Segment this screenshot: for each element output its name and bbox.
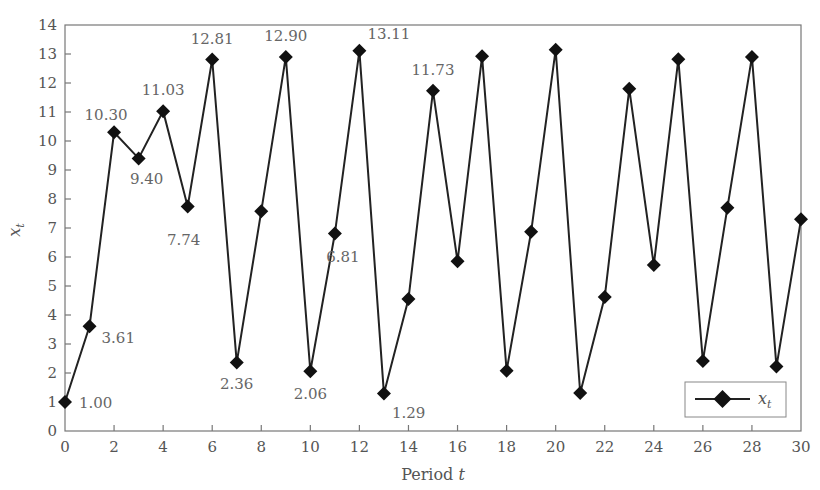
y-tick-label: 13	[38, 45, 57, 63]
y-tick-label: 6	[47, 248, 57, 266]
y-tick-label: 14	[38, 16, 57, 34]
diamond-marker-icon	[794, 212, 808, 226]
data-label: 1.00	[79, 394, 112, 412]
y-tick-label: 0	[47, 422, 57, 440]
data-label: 11.73	[412, 61, 455, 79]
x-tick-label: 16	[448, 438, 467, 456]
data-label: 12.81	[191, 30, 234, 48]
diamond-marker-icon	[475, 49, 489, 63]
y-tick-label: 10	[38, 132, 57, 150]
x-tick-label: 28	[742, 438, 761, 456]
diamond-marker-icon	[254, 204, 268, 218]
x-tick-label: 4	[158, 438, 168, 456]
data-label: 13.11	[367, 25, 410, 43]
diamond-marker-icon	[377, 387, 391, 401]
data-label: 10.30	[85, 106, 128, 124]
x-tick-label: 2	[109, 438, 119, 456]
data-label: 2.06	[294, 385, 327, 403]
x-tick-label: 20	[546, 438, 565, 456]
y-tick-label: 12	[38, 74, 57, 92]
data-label: 11.03	[142, 81, 185, 99]
diamond-marker-icon	[181, 200, 195, 214]
x-tick-label: 18	[497, 438, 516, 456]
diamond-marker-icon	[745, 50, 759, 64]
diamond-marker-icon	[671, 52, 685, 66]
x-tick-label: 14	[399, 438, 418, 456]
diamond-marker-icon	[328, 227, 342, 241]
y-axis: 01234567891011121314	[38, 16, 71, 440]
diamond-marker-icon	[720, 201, 734, 215]
y-tick-label: 2	[47, 364, 57, 382]
diamond-marker-icon	[279, 50, 293, 64]
y-tick-label: 4	[47, 306, 57, 324]
x-tick-label: 22	[595, 438, 614, 456]
data-label: 1.29	[392, 404, 425, 422]
y-tick-label: 11	[38, 103, 57, 121]
x-axis-title: Period t	[401, 465, 465, 484]
data-label: 3.61	[102, 329, 135, 347]
data-label: 7.74	[167, 231, 200, 249]
diamond-marker-icon	[426, 84, 440, 98]
y-tick-label: 3	[47, 335, 57, 353]
y-tick-label: 1	[47, 393, 57, 411]
diamond-marker-icon	[230, 356, 244, 370]
x-tick-label: 6	[207, 438, 217, 456]
diamond-marker-icon	[303, 364, 317, 378]
y-tick-label: 9	[47, 161, 57, 179]
y-tick-label: 5	[47, 277, 57, 295]
y-axis-title: xt	[5, 223, 27, 237]
data-label: 6.81	[326, 248, 359, 266]
data-label: 9.40	[130, 170, 163, 188]
diamond-marker-icon	[205, 53, 219, 67]
diamond-marker-icon	[83, 319, 97, 333]
x-tick-label: 0	[60, 438, 70, 456]
diamond-marker-icon	[696, 354, 710, 368]
diamond-marker-icon	[352, 44, 366, 58]
x-tick-label: 30	[791, 438, 810, 456]
legend: xt	[685, 382, 786, 417]
x-axis: 024681012141618202224262830	[60, 425, 810, 456]
diamond-marker-icon	[573, 386, 587, 400]
diamond-marker-icon	[598, 290, 612, 304]
diamond-marker-icon	[769, 360, 783, 374]
diamond-marker-icon	[58, 395, 72, 409]
diamond-marker-icon	[647, 258, 661, 272]
diamond-marker-icon	[156, 104, 170, 118]
diamond-marker-icon	[524, 225, 538, 239]
x-tick-label: 8	[256, 438, 266, 456]
data-labels: 1.003.6110.309.4011.037.7412.812.3612.90…	[79, 25, 454, 422]
diamond-marker-icon	[622, 82, 636, 96]
diamond-marker-icon	[500, 364, 514, 378]
data-label: 2.36	[220, 375, 253, 393]
diamond-marker-icon	[401, 292, 415, 306]
y-tick-label: 8	[47, 190, 57, 208]
x-tick-label: 10	[301, 438, 320, 456]
y-tick-label: 7	[47, 219, 57, 237]
x-tick-label: 12	[350, 438, 369, 456]
data-label: 12.90	[264, 27, 307, 45]
x-tick-label: 24	[644, 438, 663, 456]
line-chart: 024681012141618202224262830 012345678910…	[0, 0, 820, 490]
diamond-marker-icon	[451, 254, 465, 268]
x-tick-label: 26	[693, 438, 712, 456]
diamond-marker-icon	[549, 43, 563, 57]
